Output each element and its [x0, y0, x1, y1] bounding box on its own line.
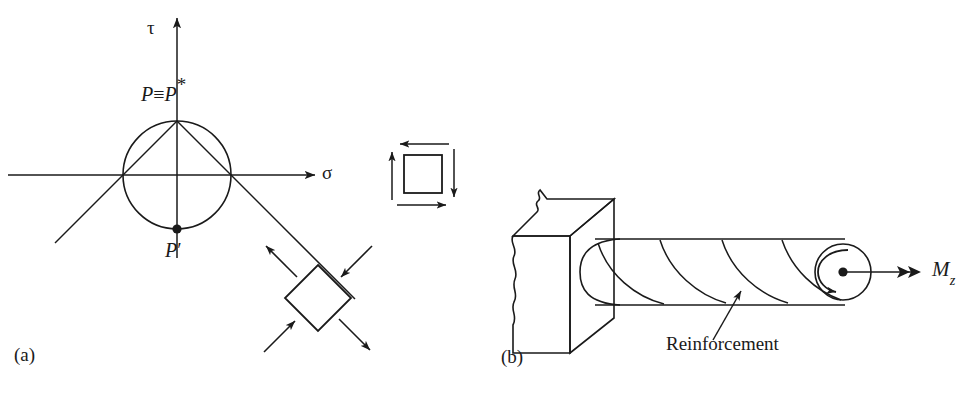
tau-axis-label: τ [147, 18, 155, 37]
p-star-symbol: P [165, 83, 177, 105]
equivalence-symbol: ≡ [153, 83, 164, 105]
helix-curve-1 [598, 243, 664, 304]
reinforcement-label: Reinforcement [666, 334, 779, 353]
chord-left-extended [55, 121, 177, 243]
tension-arrow-lower-right [339, 319, 370, 350]
cylindrical-shaft-group [580, 239, 921, 340]
pure-shear-element-group [392, 144, 454, 205]
figure-vector-layer [0, 0, 977, 400]
star-superscript: * [177, 74, 187, 95]
support-wall-block-group [512, 190, 614, 353]
sigma-axis-label: σ [322, 163, 332, 182]
moment-symbol: M [932, 257, 950, 281]
compression-arrow-lower-left [264, 321, 295, 352]
p-prime-symbol: P [165, 239, 177, 261]
helix-curve-3 [722, 240, 788, 303]
moment-subscript-z: z [950, 272, 956, 288]
torque-moment-label: Mz [932, 259, 955, 283]
point-p-prime-label: P′ [165, 240, 182, 260]
chord-right-extended [177, 121, 355, 299]
p-symbol: P [141, 83, 153, 105]
point-p-equiv-pstar-label: P≡P* [141, 77, 186, 104]
wall-front-face [512, 236, 570, 353]
figure-root: τ σ P≡P* P′ (a) (b) Reinforcement Mz [0, 0, 977, 400]
pure-shear-square [404, 155, 442, 193]
wall-top-face [513, 190, 614, 236]
panel-a-tag: (a) [14, 345, 35, 364]
wall-right-face [570, 199, 614, 353]
prime-mark: ′ [177, 239, 181, 261]
point-p-prime-dot [172, 224, 181, 233]
tension-arrow-upper-left [266, 246, 297, 277]
helix-curve-2 [660, 240, 726, 303]
compression-arrow-upper-right [341, 246, 372, 277]
panel-b-tag: (b) [501, 347, 523, 366]
